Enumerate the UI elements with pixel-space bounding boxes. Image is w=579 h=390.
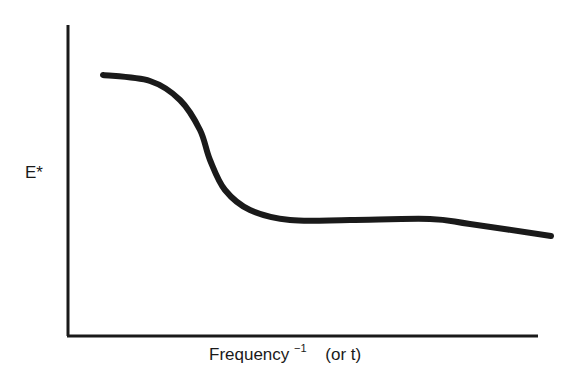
x-axis-label-main: Frequency (209, 345, 289, 364)
x-axis-label-exponent: −1 (294, 342, 307, 354)
x-axis-label-suffix: (or t) (325, 345, 361, 364)
e-star-curve (103, 75, 551, 236)
x-axis-label: Frequency −1 (or t) (209, 345, 361, 365)
chart-canvas (0, 0, 579, 390)
y-axis-label: E* (25, 163, 43, 183)
